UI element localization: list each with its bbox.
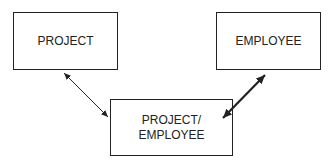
arrow-project-to-project-employee — [64, 73, 108, 117]
entity-employee: EMPLOYEE — [216, 12, 321, 70]
entity-project-label: PROJECT — [37, 34, 93, 49]
entity-employee-label: EMPLOYEE — [235, 34, 301, 49]
entity-project: PROJECT — [13, 12, 118, 70]
entity-project-employee: PROJECT/ EMPLOYEE — [110, 99, 233, 156]
entity-project-employee-label-line1: PROJECT/ — [142, 113, 201, 128]
entity-project-employee-label-line2: EMPLOYEE — [138, 128, 204, 143]
